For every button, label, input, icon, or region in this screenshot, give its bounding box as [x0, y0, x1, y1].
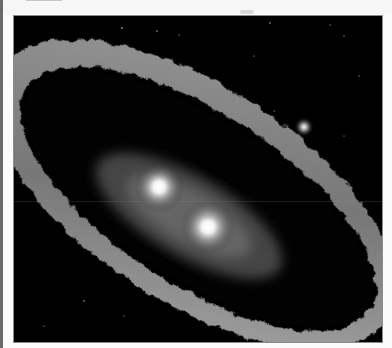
page-edge-bar	[0, 0, 3, 348]
debris-disk-illustration	[14, 16, 382, 342]
page-fold-mark	[240, 10, 254, 14]
clipped-text-line	[26, 0, 62, 3]
illustration-figure	[13, 15, 383, 343]
scan-line	[14, 201, 382, 202]
distant-companion-star	[294, 117, 314, 137]
